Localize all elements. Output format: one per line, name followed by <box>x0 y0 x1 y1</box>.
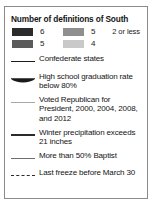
legend-entry-confederate-states: Confederate states <box>11 54 142 67</box>
legend-entry-label: More than 50% Baptist <box>39 151 117 160</box>
legend-swatch-grid: 6 5 5 4 2 or less <box>11 27 142 51</box>
map-legend-panel: Number of definitions of South 6 5 5 4 2… <box>4 6 148 199</box>
color-swatch <box>12 40 33 48</box>
legend-title: Number of definitions of South <box>11 14 142 24</box>
legend-swatch-item-6-dark: 6 <box>12 27 44 36</box>
legend-swatch-item-4-light: 4 <box>63 39 95 48</box>
legend-inner: Number of definitions of South 6 5 5 4 2… <box>5 7 147 190</box>
legend-entry-label: Confederate states <box>39 54 104 63</box>
dashed-line-icon <box>11 171 36 181</box>
swatch-label: 5 <box>40 39 44 48</box>
legend-entry-label: Last freeze before March 30 <box>39 168 135 177</box>
color-swatch <box>63 28 84 36</box>
solid-line-icon <box>11 98 36 108</box>
legend-entry-baptist: More than 50% Baptist <box>11 151 142 164</box>
swatch-label: 6 <box>40 27 44 36</box>
legend-entry-winter-precipitation: Winter precipitation exceeds 21 inches <box>11 128 142 147</box>
legend-no-swatch-label: 2 or less <box>112 27 140 36</box>
legend-entry-last-freeze: Last freeze before March 30 <box>11 168 142 181</box>
solid-line-icon <box>11 131 36 141</box>
swatch-label: 4 <box>91 39 95 48</box>
legend-entry-voted-republican: Voted Republican for President, 2000, 20… <box>11 95 142 123</box>
legend-entry-label: Voted Republican for President, 2000, 20… <box>39 95 142 123</box>
color-swatch <box>63 40 84 48</box>
legend-entry-label: High school graduation rate below 80% <box>39 72 142 91</box>
legend-swatch-item-5-medium: 5 <box>63 27 95 36</box>
legend-entry-label: Winter precipitation exceeds 21 inches <box>39 128 142 147</box>
swatch-label: 5 <box>91 27 95 36</box>
legend-swatch-item-5-dark: 5 <box>12 39 44 48</box>
solid-line-icon <box>11 154 36 164</box>
color-swatch <box>12 28 33 36</box>
tapered-lens-line-icon <box>11 75 36 85</box>
solid-line-icon <box>11 57 36 67</box>
legend-entry-highschool-graduation: High school graduation rate below 80% <box>11 72 142 91</box>
legend-line-entries: Confederate states High school graduatio… <box>11 54 142 181</box>
